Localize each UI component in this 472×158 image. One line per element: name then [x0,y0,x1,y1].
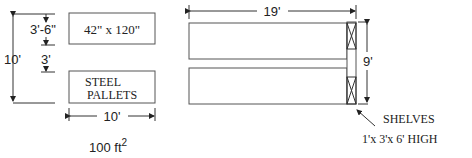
leader-arrow-icon [357,110,375,126]
dim-width-10ft: 10' [104,109,121,124]
steel-pallets-label-2: PALLETS [87,88,137,102]
dim-top-gap: 3'-6" [30,22,56,37]
dim-height-9ft: 9' [363,54,373,69]
dim-height-10ft: 10' [4,52,21,67]
floor-plan-diagram: 42" x 120" STEEL PALLETS 10' 3'-6" 3' 10… [0,0,472,158]
dim-length-19ft: 19' [264,4,281,19]
right-layout: 19' 9' SHELVES 1'x 3'x 6' HIGH [189,4,438,146]
left-layout: 42" x 120" STEEL PALLETS 10' 3'-6" 3' 10… [4,13,155,155]
area-value: 100 ft [89,140,122,155]
rack-top [189,23,347,59]
area-label: 100 ft2 [89,137,128,155]
box-42x120-label: 42" x 120" [84,22,140,37]
steel-pallets-label-1: STEEL [85,75,121,89]
shelves-label: SHELVES [383,112,435,126]
rack-bottom [189,68,347,104]
area-exponent: 2 [122,137,128,148]
dim-mid-gap: 3' [41,52,51,67]
shelves-size-label: 1'x 3'x 6' HIGH [362,132,438,146]
